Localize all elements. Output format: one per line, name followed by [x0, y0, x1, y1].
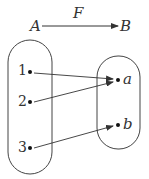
mapping-arrows — [34, 73, 113, 148]
function-mapping-diagram: B --> A F B 1 2 3 a b — [0, 0, 149, 179]
element-b-dot — [116, 123, 120, 127]
element-2-label: 2 — [18, 93, 27, 109]
function-f-label: F — [72, 4, 84, 22]
element-a-dot — [116, 78, 120, 82]
header-function-arrow: A F B — [28, 4, 131, 35]
element-3-dot — [28, 146, 32, 150]
mapping-2-to-a — [34, 82, 113, 102]
codomain-set-boundary — [97, 56, 140, 149]
element-3-label: 3 — [18, 139, 27, 155]
set-a-label: A — [28, 17, 41, 35]
element-a-label: a — [123, 70, 132, 88]
domain-set: 1 2 3 — [8, 40, 52, 174]
mapping-1-to-a — [34, 73, 113, 79]
element-b-label: b — [123, 115, 133, 133]
element-1-dot — [28, 70, 32, 74]
mapping-3-to-b — [34, 126, 113, 148]
element-2-dot — [28, 100, 32, 104]
element-1-label: 1 — [18, 62, 27, 78]
codomain-set: a b — [97, 56, 140, 149]
domain-set-boundary — [8, 40, 52, 174]
set-b-label: B — [119, 17, 131, 35]
